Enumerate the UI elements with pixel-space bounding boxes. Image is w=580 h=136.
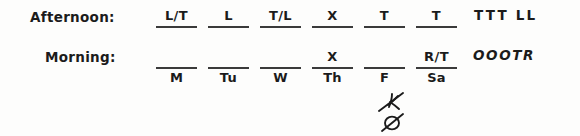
day-label-friday: F [363, 70, 406, 85]
day-label-monday: M [155, 70, 198, 85]
blank-rule [364, 26, 405, 28]
afternoon-slot-saturday[interactable]: T [415, 7, 458, 29]
afternoon-slot-value: T/L [259, 7, 302, 25]
blank-rule [156, 67, 197, 69]
afternoon-slot-value: X [311, 7, 354, 25]
blank-rule [312, 26, 353, 28]
morning-slot-thursday[interactable]: X Th [311, 47, 354, 91]
morning-slot-value: X [311, 47, 354, 66]
morning-slot-friday[interactable]: F [363, 47, 406, 91]
afternoon-row-label: Afternoon: [30, 9, 115, 25]
afternoon-slot-value: T [363, 7, 406, 25]
morning-slot-saturday[interactable]: R/T Sa [415, 47, 458, 91]
blank-rule [208, 67, 249, 69]
blank-rule [416, 67, 457, 69]
morning-slot-value: R/T [415, 47, 458, 66]
morning-slot-value [155, 47, 198, 66]
afternoon-slot-tuesday[interactable]: L [207, 7, 250, 29]
afternoon-slot-monday[interactable]: L/T [155, 7, 198, 29]
afternoon-slot-value: L/T [155, 7, 198, 25]
day-label-wednesday: W [259, 70, 302, 85]
afternoon-summary-letters: TTT LL [474, 7, 537, 23]
crossed-out-mark-upper-icon [379, 93, 403, 111]
crossed-out-marks-group [372, 92, 420, 136]
blank-rule [260, 26, 301, 28]
morning-summary-letters: OOOTR [473, 47, 535, 63]
afternoon-slot-value: T [415, 7, 458, 25]
day-label-tuesday: Tu [207, 70, 250, 85]
morning-row-label: Morning: [45, 49, 116, 65]
blank-rule [416, 26, 457, 28]
blank-rule [208, 26, 249, 28]
day-label-saturday: Sa [415, 70, 458, 85]
afternoon-slot-wednesday[interactable]: T/L [259, 7, 302, 29]
blank-rule [156, 26, 197, 28]
blank-rule [364, 67, 405, 69]
blank-rule [260, 67, 301, 69]
schedule-sheet: Afternoon: Morning: L/T L T/L X T T M Tu… [0, 0, 580, 136]
morning-slot-value [207, 47, 250, 66]
morning-slot-value [259, 47, 302, 66]
afternoon-slot-friday[interactable]: T [363, 7, 406, 29]
crossed-out-mark-lower-icon [382, 114, 403, 131]
afternoon-slot-thursday[interactable]: X [311, 7, 354, 29]
morning-slot-wednesday[interactable]: W [259, 47, 302, 91]
morning-slot-monday[interactable]: M [155, 47, 198, 91]
morning-slot-value [363, 47, 406, 66]
afternoon-slot-value: L [207, 7, 250, 25]
morning-slot-tuesday[interactable]: Tu [207, 47, 250, 91]
day-label-thursday: Th [311, 70, 354, 85]
blank-rule [312, 67, 353, 69]
